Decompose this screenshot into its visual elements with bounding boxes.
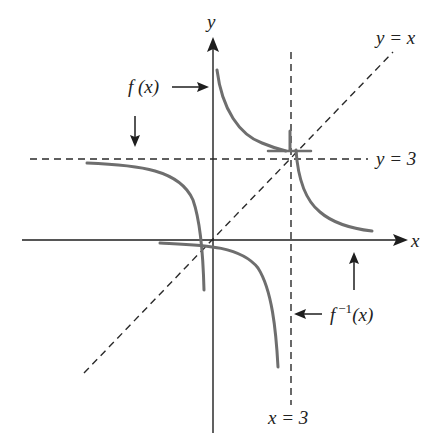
f-lower-branch: [87, 163, 204, 290]
f-inverse-label-base: f: [330, 304, 338, 325]
y-axis-label: y: [205, 11, 216, 32]
inverse-function-diagram: y x y = x y = 3 x = 3 f (x) f−1(x): [0, 0, 432, 433]
y-equals-x-label: y = x: [374, 27, 416, 48]
x-axis-label: x: [410, 230, 420, 251]
y-equals-3-label: y = 3: [374, 148, 416, 169]
f-upper-branch: [217, 70, 286, 151]
line-y-equals-x: [84, 52, 393, 373]
f-inverse-lower-branch: [160, 243, 278, 367]
y-axis: [207, 37, 219, 433]
x-axis: [22, 234, 408, 246]
f-inverse-label-sup: −1: [338, 301, 352, 316]
f-inverse-label-arg: (x): [352, 304, 373, 326]
f-inverse-label: f−1(x): [330, 301, 373, 326]
x-equals-3-label: x = 3: [267, 407, 308, 428]
f-label: f (x): [128, 76, 159, 98]
